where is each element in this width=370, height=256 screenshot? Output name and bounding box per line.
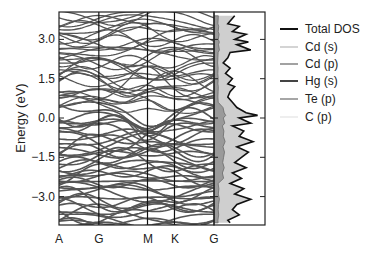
band-lines xyxy=(59,5,214,240)
legend-label-cd-s: Cd (s) xyxy=(305,40,338,54)
kpoint-label-g2: G xyxy=(209,232,218,246)
y-tick-label: 3.0 xyxy=(38,32,55,46)
legend-label-cd-p: Cd (p) xyxy=(305,57,338,71)
legend-label-c-p: C (p) xyxy=(305,110,332,124)
kpoint-label-k: K xyxy=(171,232,179,246)
legend-label-total-dos: Total DOS xyxy=(305,22,360,36)
band-structure-dos-figure: 3.01.50.0−1.5−3.0 Energy (eV) A G M K G … xyxy=(0,0,370,256)
legend: Total DOS Cd (s) Cd (p) Hg (s) Te (p) C … xyxy=(280,22,360,124)
y-tick-label: −3.0 xyxy=(31,190,55,204)
dos-plot xyxy=(214,16,258,223)
y-tick-label: 1.5 xyxy=(38,72,55,86)
y-axis-title: Energy (eV) xyxy=(13,83,28,152)
kpoint-label-g1: G xyxy=(94,232,103,246)
legend-label-te-p: Te (p) xyxy=(305,92,336,106)
kpoint-label-m: M xyxy=(143,232,153,246)
kpoint-label-a: A xyxy=(55,232,63,246)
legend-label-hg-s: Hg (s) xyxy=(305,74,338,88)
y-tick-label: 0.0 xyxy=(38,111,55,125)
y-tick-label: −1.5 xyxy=(31,150,55,164)
